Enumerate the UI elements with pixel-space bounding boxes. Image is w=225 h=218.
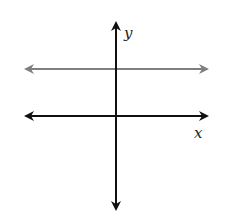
coordinate-plane-diagram: y x bbox=[0, 0, 225, 218]
y-axis-label: y bbox=[123, 24, 133, 42]
x-axis-label: x bbox=[194, 124, 203, 142]
